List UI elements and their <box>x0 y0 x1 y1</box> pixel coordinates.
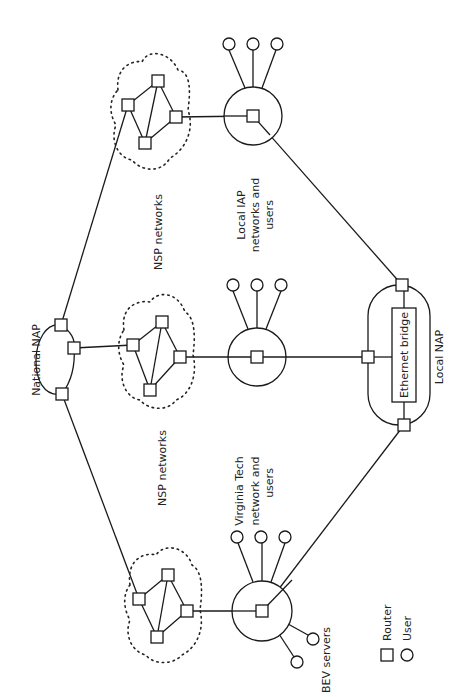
router-icon <box>170 111 182 123</box>
nsp-networks-label-bottom: NSP networks <box>156 430 169 506</box>
nsp-cloud-top <box>111 54 190 170</box>
router-icon <box>151 631 163 643</box>
user-icon <box>271 38 283 50</box>
svg-text:Local IAP: Local IAP <box>235 190 248 240</box>
nsp-networks-label-top: NSP networks <box>152 194 165 270</box>
router-icon <box>181 605 193 617</box>
user-legend-icon <box>401 649 413 661</box>
user-icon <box>255 531 267 543</box>
nsp-cloud-bottom <box>125 548 202 663</box>
virginia-tech-label: Virginia Tech network and users <box>233 456 276 526</box>
network-diagram: National NAP <box>0 0 457 697</box>
user-icon <box>247 38 259 50</box>
user-icon <box>223 38 235 50</box>
svg-text:Virginia Tech: Virginia Tech <box>233 456 246 526</box>
router-icon <box>133 593 145 605</box>
local-iap-middle <box>227 279 287 386</box>
user-icon <box>279 531 291 543</box>
national-nap: National NAP <box>30 319 80 400</box>
router-icon <box>144 384 156 396</box>
virginia-tech-network <box>231 531 319 668</box>
router-icon <box>122 99 134 111</box>
local-iap-top <box>223 38 283 145</box>
local-iap-label: Local IAP networks and users <box>235 178 276 253</box>
svg-text:users: users <box>263 200 276 230</box>
router-icon <box>68 342 80 354</box>
router-icon <box>398 419 410 431</box>
router-icon <box>251 351 263 363</box>
router-legend-icon <box>381 649 393 661</box>
svg-text:networks and: networks and <box>249 178 262 253</box>
router-icon <box>156 316 168 328</box>
router-icon <box>139 137 151 149</box>
national-nap-label: National NAP <box>30 324 43 396</box>
user-icon <box>251 279 263 291</box>
bev-server-icon <box>291 656 303 668</box>
legend-user-label: User <box>401 615 414 641</box>
router-icon <box>247 110 259 122</box>
legend-router-label: Router <box>381 604 394 641</box>
router-icon <box>362 351 374 363</box>
router-icon <box>55 319 67 331</box>
router-icon <box>396 279 408 291</box>
svg-text:users: users <box>263 468 276 498</box>
router-icon <box>162 569 174 581</box>
legend: Router User <box>381 604 414 661</box>
user-icon <box>275 279 287 291</box>
svg-text:network and: network and <box>249 457 262 526</box>
ethernet-bridge-label: Ethernet bridge <box>398 312 411 398</box>
bev-server-icon <box>307 633 319 645</box>
router-icon <box>56 388 68 400</box>
bev-servers-label: BEV servers <box>320 627 333 693</box>
user-icon <box>227 279 239 291</box>
router-icon <box>127 339 139 351</box>
router-icon <box>174 351 186 363</box>
local-nap: Ethernet bridge Local NAP <box>362 279 446 431</box>
router-icon <box>152 75 164 87</box>
user-icon <box>231 531 243 543</box>
nsp-cloud-middle <box>119 295 195 409</box>
router-icon <box>256 605 268 617</box>
local-nap-label: Local NAP <box>433 329 446 384</box>
